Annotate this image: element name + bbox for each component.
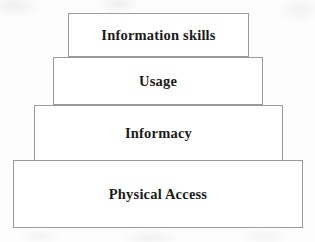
pyramid-level-label: Information skills bbox=[101, 28, 215, 43]
pyramid-level-label: Usage bbox=[139, 74, 177, 89]
pyramid-level-informacy: Informacy bbox=[34, 105, 283, 161]
pyramid-level-label: Physical Access bbox=[109, 187, 207, 202]
pyramid-level-information-skills: Information skills bbox=[68, 13, 249, 57]
pyramid-level-usage: Usage bbox=[53, 57, 263, 105]
pyramid-level-physical-access: Physical Access bbox=[13, 160, 303, 228]
pyramid-diagram: Information skills Usage Informacy Physi… bbox=[0, 0, 315, 242]
pyramid-level-label: Informacy bbox=[125, 126, 192, 141]
